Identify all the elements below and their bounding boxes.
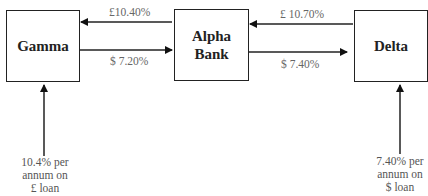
edge-label-delta-to-alpha: £ 10.70% — [280, 8, 324, 20]
node-alpha-bank: Alpha Bank — [174, 9, 249, 81]
note-delta-line1: 7.40% per — [369, 155, 428, 168]
edge-label-alpha-to-gamma: £10.40% — [109, 6, 150, 18]
node-delta: Delta — [354, 10, 428, 82]
edge-label-alpha-to-delta: $ 7.40% — [281, 58, 319, 70]
node-gamma-label: Gamma — [17, 37, 69, 55]
note-delta-loan: 7.40% per annum on $ loan — [369, 155, 428, 194]
node-alpha-label-line2: Bank — [194, 45, 228, 63]
note-delta-line2: annum on — [369, 168, 428, 181]
note-gamma-line2: annum on — [14, 169, 76, 182]
edge-label-gamma-to-alpha: $ 7.20% — [110, 55, 148, 67]
node-delta-label: Delta — [374, 37, 408, 55]
node-alpha-label-line1: Alpha — [192, 27, 231, 45]
note-delta-line3: $ loan — [369, 181, 428, 194]
node-gamma: Gamma — [6, 10, 80, 82]
note-gamma-line3: £ loan — [14, 182, 76, 195]
note-gamma-loan: 10.4% per annum on £ loan — [14, 156, 76, 195]
note-gamma-line1: 10.4% per — [14, 156, 76, 169]
